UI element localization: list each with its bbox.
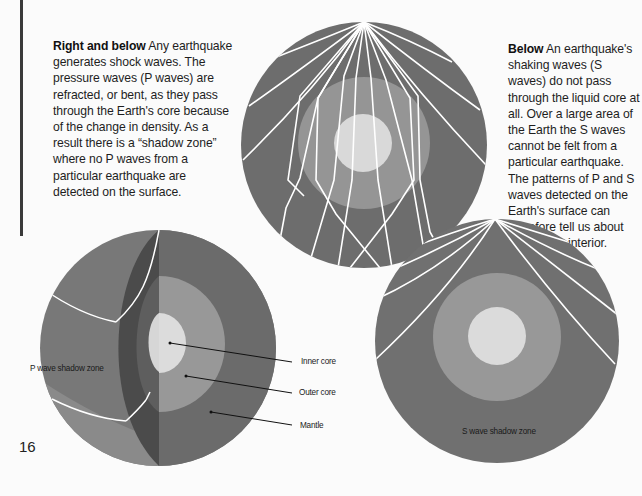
label-inner-core: Inner core [301, 357, 336, 366]
label-s-wave-shadow-zone: S wave shadow zone [462, 427, 536, 436]
label-mantle: Mantle [300, 421, 323, 430]
cutaway-globe [30, 220, 292, 480]
label-outer-core: Outer core [299, 388, 336, 397]
page-number: 16 [19, 438, 36, 455]
label-p-wave-shadow-zone: P wave shadow zone [30, 364, 104, 373]
